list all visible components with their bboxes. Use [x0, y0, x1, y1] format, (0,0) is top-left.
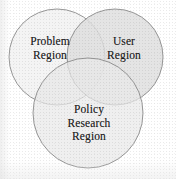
problem-region-label-line-2: Region: [14, 49, 86, 63]
user-region-label-line-2: Region: [92, 49, 156, 63]
venn-diagram: Problem Region User Region Policy Resear…: [0, 0, 176, 179]
problem-region-label-line-1: Problem: [14, 35, 86, 49]
policy-research-region-label-line-1: Policy: [50, 103, 128, 117]
user-region-label-line-1: User: [92, 35, 156, 49]
policy-research-region-label-line-2: Research: [50, 117, 128, 131]
policy-research-region-label: Policy Research Region: [50, 103, 128, 144]
user-region-label: User Region: [92, 35, 156, 62]
policy-research-region-label-line-3: Region: [50, 130, 128, 144]
problem-region-label: Problem Region: [14, 35, 86, 62]
venn-diagram-svg: [0, 0, 176, 179]
